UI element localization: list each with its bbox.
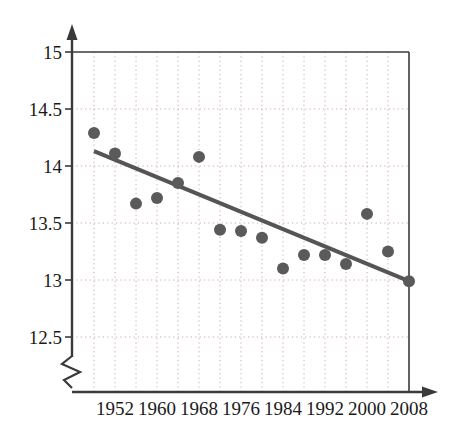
y-tick-label: 14 <box>43 156 63 177</box>
data-point <box>193 151 205 163</box>
x-tick-label: 1992 <box>306 398 344 419</box>
data-point <box>172 177 184 189</box>
data-point <box>214 224 226 236</box>
data-point <box>382 246 394 258</box>
data-point <box>151 192 163 204</box>
y-tick-label: 14.5 <box>29 99 62 120</box>
data-point <box>298 249 310 261</box>
x-tick-label: 1952 <box>96 398 134 419</box>
x-tick-label: 1984 <box>264 398 303 419</box>
data-point <box>235 225 247 237</box>
data-point <box>403 275 415 287</box>
data-point <box>256 232 268 244</box>
data-point <box>340 258 352 270</box>
data-point <box>319 249 331 261</box>
data-point <box>361 208 373 220</box>
data-point <box>130 198 142 210</box>
y-tick-label: 12.5 <box>29 327 62 348</box>
chart-background <box>0 0 451 440</box>
x-tick-label: 2008 <box>390 398 428 419</box>
scatter-chart: 12.51313.51414.515 195219601968197619841… <box>0 0 451 440</box>
x-tick-label: 1968 <box>180 398 218 419</box>
chart-canvas: 12.51313.51414.515 195219601968197619841… <box>0 0 451 440</box>
data-point <box>109 147 121 159</box>
x-tick-label: 1960 <box>138 398 176 419</box>
y-tick-label: 15 <box>43 42 62 63</box>
x-tick-label: 1976 <box>222 398 260 419</box>
x-tick-label: 2000 <box>348 398 386 419</box>
y-tick-label: 13.5 <box>29 213 62 234</box>
y-tick-label: 13 <box>43 270 62 291</box>
data-point <box>277 263 289 275</box>
data-point <box>88 127 100 139</box>
